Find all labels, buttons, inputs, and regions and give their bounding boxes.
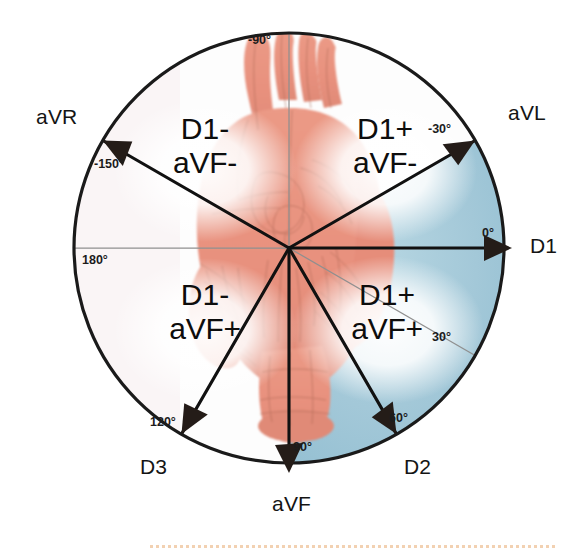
degree-label-zero: 0° [482, 226, 494, 240]
quadrant-upper-right: D1+ aVF- [320, 112, 450, 180]
degree-label-onetwenty: 120° [150, 415, 176, 429]
quadrant-upper-right-d1: D1+ [320, 112, 450, 146]
degree-label-sixty: 60° [389, 411, 408, 425]
quadrant-lower-left: D1- aVF+ [140, 278, 270, 346]
degree-label-oneeighty: 180° [82, 253, 108, 267]
lead-label-d2: D2 [404, 455, 431, 479]
lead-label-d1: D1 [530, 234, 557, 258]
quadrant-lower-left-d1: D1- [140, 278, 270, 312]
degree-label-neg150: -150° [94, 157, 124, 171]
hexaxial-diagram: aVR aVL D1 D2 aVF D3 -150° -90° -30° 0° … [0, 0, 588, 553]
hexaxial-svg [0, 0, 588, 553]
quadrant-upper-left-avf: aVF- [140, 146, 270, 180]
lead-label-avf: aVF [272, 492, 311, 516]
quadrant-lower-right-avf: aVF+ [322, 312, 452, 346]
quadrant-lower-right-d1: D1+ [322, 278, 452, 312]
quadrant-upper-left: D1- aVF- [140, 112, 270, 180]
degree-label-ninety: 90° [293, 440, 312, 454]
quadrant-lower-right: D1+ aVF+ [322, 278, 452, 346]
quadrant-lower-left-avf: aVF+ [140, 312, 270, 346]
lead-label-d3: D3 [140, 455, 167, 479]
bottom-dotted-rule [150, 545, 558, 548]
quadrant-upper-left-d1: D1- [140, 112, 270, 146]
lead-label-avr: aVR [36, 105, 77, 129]
degree-label-neg90: -90° [248, 33, 271, 47]
quadrant-upper-right-avf: aVF- [320, 146, 450, 180]
lead-label-avl: aVL [508, 101, 546, 125]
